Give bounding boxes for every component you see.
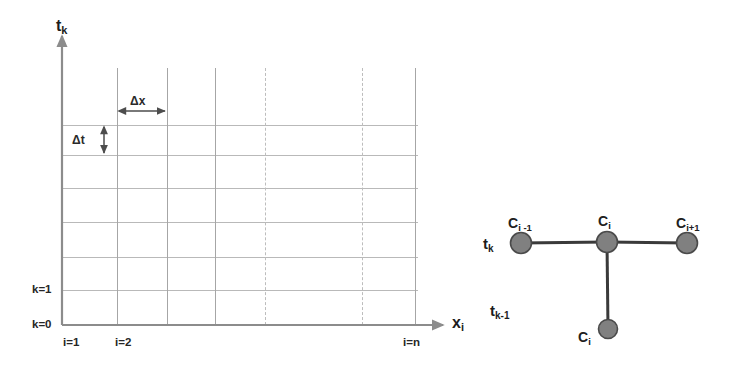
stencil-time-label-tk: tk: [483, 236, 494, 251]
bond-center-below: [607, 242, 608, 329]
stencil-node-label-c-left: Ci -1: [508, 216, 532, 230]
stencil-time-label-tk-1: tk-1: [490, 303, 509, 318]
stencil-node-c-left: [511, 233, 532, 254]
figure-root: tk xi Δx Δt k=1 k=0 i=1 i=2 i=n: [0, 0, 748, 371]
stencil-node-label-c-below: Ci: [578, 330, 591, 344]
bond-center-right: [607, 242, 687, 243]
stencil-node-c-right: [677, 233, 698, 254]
stencil-panel: Ci -1 Ci Ci+1 Ci tk tk-1: [0, 0, 748, 371]
stencil-bonds: [0, 0, 748, 371]
stencil-node-label-c-center: Ci: [598, 214, 611, 228]
bond-left-center: [521, 242, 607, 243]
stencil-node-c-center: [597, 232, 618, 253]
stencil-node-label-c-right: Ci+1: [676, 216, 700, 230]
stencil-node-c-below: [599, 320, 618, 339]
